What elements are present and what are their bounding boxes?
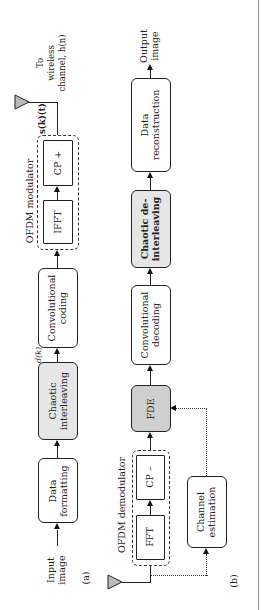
output-image-label: Output image xyxy=(138,24,162,68)
arrowhead-icon xyxy=(147,268,153,274)
arrowhead-icon xyxy=(147,500,153,506)
arrow-fft-to-cp xyxy=(150,506,151,515)
chaotic-interleaving-label: Chaotic interleaving xyxy=(47,362,71,440)
signal-s-label: s(k)(t) xyxy=(37,106,47,134)
chaotic-deinterleaving-label: Chaotic de- interleaving xyxy=(139,190,163,268)
dotted-estimation-to-fde xyxy=(206,408,207,476)
input-image-label: Input image xyxy=(45,545,69,595)
arrow-ifft-to-cp xyxy=(57,192,58,200)
arrow-interleaving-to-coding xyxy=(57,354,58,362)
fde-label: FDE xyxy=(145,389,157,429)
arrow-deinterleaving-to-reconstruction xyxy=(150,178,151,190)
arrow-formatting-to-interleaving xyxy=(57,446,58,458)
panel-b-tag: (b) xyxy=(228,571,240,591)
arrowhead-icon xyxy=(54,250,60,256)
arrowhead-icon xyxy=(147,432,153,438)
ofdm-modulator-label: OFDM modulator xyxy=(24,151,36,251)
tx-antenna-icon xyxy=(14,94,30,110)
data-reconstruction-label: Data reconstruction xyxy=(139,78,163,172)
arrowhead-icon xyxy=(203,548,209,554)
dotted-to-channel-estimation xyxy=(151,575,208,576)
arrowhead-icon xyxy=(147,365,153,371)
convolutional-coding-label: Convolutional coding xyxy=(46,268,70,348)
to-wireless-channel-label: To wireless channel, h(n) xyxy=(35,31,71,96)
arrowhead-icon xyxy=(54,440,60,446)
arrow-coding-to-modulator xyxy=(57,256,58,268)
convolutional-decoding-label: Convolutional decoding xyxy=(139,285,163,365)
data-formatting-label: Data formatting xyxy=(47,459,71,524)
arrow-fde-to-decoding xyxy=(150,371,151,385)
line-antenna-to-demod xyxy=(150,565,151,583)
right-border xyxy=(258,0,259,610)
panel-a-tag: (a) xyxy=(80,568,92,588)
arrowhead-icon xyxy=(147,172,153,178)
channel-estimation-label: Channel estimation xyxy=(195,477,219,547)
arrow-input-to-formatting xyxy=(57,530,58,546)
arrowhead-icon xyxy=(54,186,60,192)
fft-label: FFT xyxy=(144,517,156,557)
arrow-reconstruction-to-output xyxy=(150,70,151,78)
cp-plus-label: CP + xyxy=(52,143,64,183)
cp-minus-label: CP – xyxy=(144,457,156,497)
ifft-label: IFFT xyxy=(52,202,64,242)
ofdm-demodulator-label: OFDM demodulator xyxy=(116,455,128,555)
signal-d-label: d(k) xyxy=(33,345,43,365)
dotted-to-channel-estimation-vertical xyxy=(206,554,207,576)
line-to-antenna xyxy=(57,102,58,135)
arrow-demod-to-fde xyxy=(150,438,151,450)
arrowhead-icon xyxy=(54,523,60,529)
dotted-estimation-to-fde-horizontal xyxy=(176,408,207,409)
line-from-antenna xyxy=(122,582,151,583)
arrow-decoding-to-deinterleaving xyxy=(150,274,151,285)
arrowhead-icon xyxy=(54,348,60,354)
rx-antenna-icon xyxy=(107,574,123,590)
